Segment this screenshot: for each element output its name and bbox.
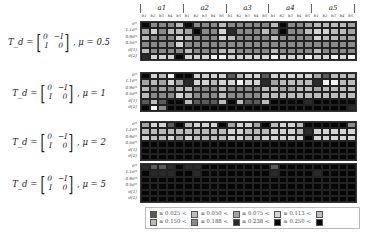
column-sub-label: b4 bbox=[338, 13, 347, 18]
heatmap-cell bbox=[253, 196, 262, 202]
heatmap-cell bbox=[141, 105, 150, 111]
heatmap-cell bbox=[175, 154, 184, 160]
row-labels: σ*1.1σ*0.9σ*0.5σ*σ(1)σ(2) bbox=[112, 163, 139, 201]
legend-swatch bbox=[150, 211, 157, 218]
heatmap-panel bbox=[140, 72, 357, 112]
heatmap-cell bbox=[296, 154, 305, 160]
heatmap-cell bbox=[261, 154, 270, 160]
heatmap-cell bbox=[304, 105, 313, 111]
heatmap-cell bbox=[150, 105, 159, 111]
panel-equation: T_d =[0−II0], μ = 2 bbox=[0, 127, 118, 157]
column-group-label: a3 bbox=[227, 4, 270, 13]
column-group-label: a2 bbox=[184, 4, 227, 13]
heatmap-cell bbox=[193, 154, 202, 160]
heatmap-cell bbox=[322, 154, 331, 160]
heatmap-cell bbox=[261, 196, 270, 202]
heatmap-cell bbox=[322, 54, 331, 60]
legend-item: ≤ 0.113 < bbox=[274, 210, 310, 217]
column-sub-label: b3 bbox=[286, 13, 295, 18]
column-sub-label: b2 bbox=[321, 13, 330, 18]
heatmap-cell bbox=[322, 105, 331, 111]
heatmap-cell bbox=[313, 196, 322, 202]
heatmap-cell bbox=[141, 154, 150, 160]
legend-swatch bbox=[191, 211, 198, 218]
heatmap-cell bbox=[339, 196, 348, 202]
column-sub-label: b5 bbox=[174, 13, 183, 18]
heatmap-cell bbox=[304, 196, 313, 202]
heatmap-cell bbox=[347, 54, 356, 60]
heatmap-cell bbox=[175, 54, 184, 60]
row-labels: σ*1.1σ*0.9σ*0.5σ*σ(1)σ(2) bbox=[112, 72, 139, 110]
column-sub-label: b3 bbox=[157, 13, 166, 18]
heatmap-cell bbox=[279, 54, 288, 60]
heatmap-cell bbox=[158, 196, 167, 202]
heatmap-cell bbox=[313, 105, 322, 111]
legend-swatch bbox=[274, 219, 281, 226]
column-sub-label: b1 bbox=[312, 13, 321, 18]
heatmap-cell bbox=[158, 154, 167, 160]
heatmap-cell bbox=[244, 105, 253, 111]
heatmap-cell bbox=[270, 105, 279, 111]
heatmap-cell bbox=[322, 196, 331, 202]
heatmap-cell bbox=[287, 154, 296, 160]
row-labels: σ*1.1σ*0.9σ*0.5σ*σ(1)σ(2) bbox=[112, 121, 139, 159]
heatmap-cell bbox=[253, 154, 262, 160]
legend-item: ≤ 0.075 < bbox=[233, 210, 269, 217]
legend-swatch bbox=[150, 219, 157, 226]
legend-item: ≤ 0.150 < bbox=[150, 218, 186, 225]
legend-item bbox=[316, 210, 325, 217]
heatmap-panel bbox=[140, 163, 357, 203]
legend-item: ≤ 0.250 < bbox=[274, 218, 310, 225]
legend-item: ≤ 0.238 < bbox=[233, 218, 269, 225]
heatmap-cell bbox=[287, 54, 296, 60]
heatmap-cell bbox=[279, 154, 288, 160]
heatmap-cell bbox=[261, 54, 270, 60]
heatmap-cell bbox=[339, 54, 348, 60]
heatmap-cell bbox=[330, 154, 339, 160]
heatmap-cell bbox=[339, 154, 348, 160]
heatmap-cell bbox=[167, 54, 176, 60]
column-group-label: a5 bbox=[312, 4, 355, 13]
heatmap-cell bbox=[210, 105, 219, 111]
heatmap-cell bbox=[296, 196, 305, 202]
column-sub-label: b5 bbox=[303, 13, 312, 18]
heatmap-cell bbox=[279, 105, 288, 111]
column-sub-label: b1 bbox=[140, 13, 149, 18]
heatmap-cell bbox=[175, 196, 184, 202]
heatmap-cell bbox=[304, 54, 313, 60]
heatmap-cell bbox=[210, 54, 219, 60]
heatmap-cell bbox=[184, 105, 193, 111]
heatmap-cell bbox=[193, 105, 202, 111]
heatmap-cell bbox=[201, 105, 210, 111]
legend-item: ≤ 0.188 < bbox=[191, 218, 227, 225]
heatmap-cell bbox=[347, 196, 356, 202]
panel-equation: T_d =[0−II0], μ = 1 bbox=[0, 78, 118, 108]
heatmap-cell bbox=[227, 196, 236, 202]
column-group-label: a1 bbox=[141, 4, 184, 13]
heatmap-cell bbox=[313, 54, 322, 60]
heatmap-cell bbox=[261, 105, 270, 111]
column-header: a1a2a3a4a5 b1b2b3b4b5b1b2b3b4b5b1b2b3b4b… bbox=[140, 4, 355, 20]
column-sub-label: b4 bbox=[209, 13, 218, 18]
heatmap-cell bbox=[279, 196, 288, 202]
heatmap-cell bbox=[287, 196, 296, 202]
heatmap-cell bbox=[193, 54, 202, 60]
heatmap-panel bbox=[140, 121, 357, 161]
heatmap-cell bbox=[184, 54, 193, 60]
heatmap-cell bbox=[236, 54, 245, 60]
heatmap-cell bbox=[218, 196, 227, 202]
legend-item: ≤ 0.025 < bbox=[150, 210, 186, 217]
column-sub-label: b1 bbox=[269, 13, 278, 18]
heatmap-cell bbox=[167, 196, 176, 202]
heatmap-cell bbox=[227, 54, 236, 60]
heatmap-cell bbox=[167, 105, 176, 111]
heatmap-cell bbox=[158, 105, 167, 111]
heatmap-cell bbox=[150, 54, 159, 60]
heatmap-cell bbox=[347, 105, 356, 111]
column-sub-label: b4 bbox=[252, 13, 261, 18]
legend-item: ≤ 0.050 < bbox=[191, 210, 227, 217]
heatmap-cell bbox=[193, 196, 202, 202]
heatmap-cell bbox=[236, 196, 245, 202]
heatmap-cell bbox=[339, 105, 348, 111]
column-sub-label: b3 bbox=[329, 13, 338, 18]
